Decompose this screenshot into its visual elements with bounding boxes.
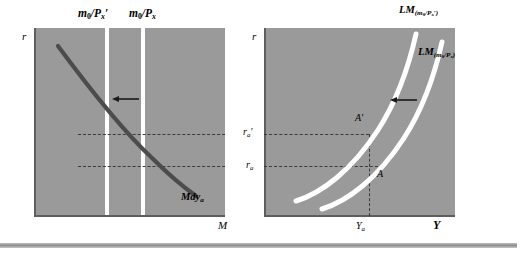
money-supply-shift-arrow [112,96,139,102]
money-market-y-axis-label: r [22,31,26,42]
lm-y-tick-ra: ra [246,160,253,172]
lm-curve-label-original: LM(m0/Px) [418,47,455,60]
lm-diagram-x-axis-label: Y [433,219,440,231]
lm-y-tick-ra-prime: ra′ [243,127,253,139]
money-supply-label-new: m0/Px′ [78,8,108,21]
money-demand-curve [58,46,196,196]
equilibrium-point-a-label: A [377,169,383,179]
lm-curve-label-new: LM(m0/Px′) [399,5,438,18]
equilibrium-point-a-prime-label: A′ [355,113,363,123]
lm-x-tick-ya: Ya [356,221,365,233]
money-supply-label-original: m0/Px [129,8,156,21]
bottom-rule-divider [0,243,517,248]
money-demand-curve-label: Mdya [181,192,204,204]
lm-diagram-y-axis-label: r [252,31,256,42]
money-market-x-axis-label: M [218,220,227,231]
curves-overlay [0,0,525,258]
figure-container: r M r Y m0/Px′ m0/Px Mdya LM(m0/Px′) LM(… [0,0,525,258]
